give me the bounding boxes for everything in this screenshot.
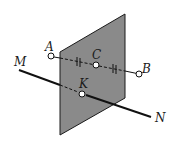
geometry-diagram: A C B K M N: [0, 0, 174, 151]
label-c: C: [92, 48, 101, 62]
label-n: N: [154, 111, 166, 125]
point-c: [93, 62, 99, 68]
label-b: B: [141, 62, 151, 76]
point-k: [79, 91, 85, 97]
segment-cb-outside: [125, 71, 136, 73]
label-a: A: [44, 40, 54, 54]
label-m: M: [13, 55, 27, 69]
segment-ac-outside: [54, 57, 60, 58]
label-k: K: [78, 77, 89, 91]
plane: [60, 14, 125, 135]
line-mn-front-left: [19, 70, 60, 85]
